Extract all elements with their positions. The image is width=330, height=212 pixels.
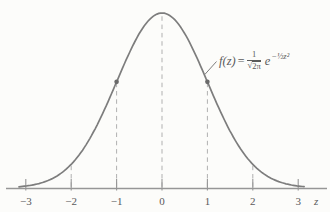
inflection-point-dot xyxy=(205,80,210,85)
x-tick-label: 0 xyxy=(159,195,165,207)
exp-base: e xyxy=(265,54,271,69)
pdf-formula-annotation: f(z) = 1 √2π e−½z² xyxy=(219,49,289,73)
x-tick-label: 2 xyxy=(250,195,256,207)
fraction-denominator: √2π xyxy=(247,61,260,72)
x-tick-label: 3 xyxy=(295,195,301,207)
x-tick-label: −2 xyxy=(65,195,77,207)
x-tick-label: −3 xyxy=(20,195,32,207)
formula-equals: = xyxy=(238,54,245,69)
x-tick-label: −1 xyxy=(111,195,123,207)
inflection-point-dot xyxy=(114,80,119,85)
annotation-leader-line xyxy=(205,62,217,75)
normal-curve-plot: −3−2−10123z xyxy=(0,0,330,212)
formula-lhs: f(z) xyxy=(219,54,236,69)
formula-fraction: 1 √2π xyxy=(247,50,260,72)
exp-superscript: −½z² xyxy=(271,51,289,61)
radicand: 2π xyxy=(252,61,261,72)
x-tick-label: 1 xyxy=(205,195,211,207)
normal-distribution-figure: −3−2−10123z f(z) = 1 √2π e−½z² xyxy=(0,0,330,212)
x-axis-label: z xyxy=(313,195,319,207)
